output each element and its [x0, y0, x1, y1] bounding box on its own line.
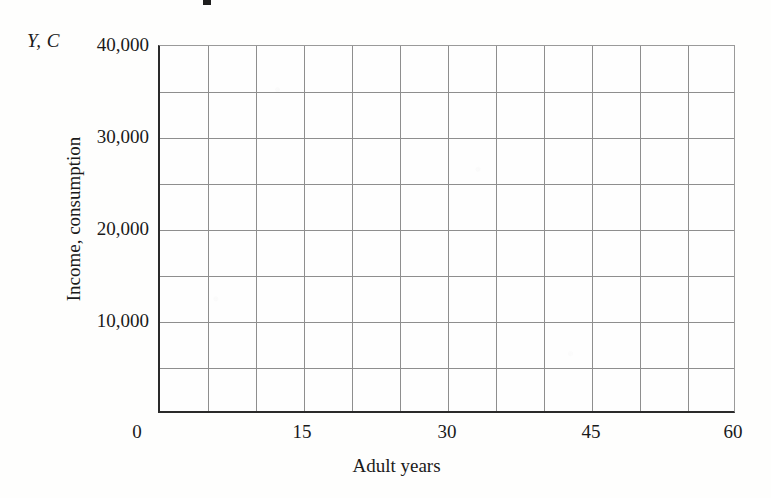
y-tick-label: 30,000 [75, 126, 149, 148]
gridline-horizontal [160, 276, 734, 277]
gridline-vertical [304, 46, 305, 411]
x-axis-title: Adult years [0, 455, 771, 477]
gridline-horizontal [160, 230, 734, 231]
y-tick-label: 20,000 [75, 218, 149, 240]
gridline-vertical [496, 46, 497, 411]
x-tick-label: 0 [132, 421, 142, 443]
gridline-horizontal [160, 322, 734, 323]
x-tick-label: 15 [293, 421, 312, 443]
gridline-vertical [400, 46, 401, 411]
gridline-vertical [592, 46, 593, 411]
gridline-horizontal [160, 184, 734, 185]
gridline-horizontal [160, 368, 734, 369]
x-tick-label: 45 [582, 421, 601, 443]
gridline-horizontal [160, 92, 734, 93]
chart-figure: Y, C Income, consumption 40,000 30,000 2… [0, 0, 771, 498]
gridline-vertical [544, 46, 545, 411]
gridline-vertical [448, 46, 449, 411]
gridline-vertical [352, 46, 353, 411]
y-tick-label: 40,000 [75, 34, 149, 56]
plot-area [158, 45, 735, 413]
gridline-vertical [208, 46, 209, 411]
y-tick-label: 10,000 [75, 310, 149, 332]
y-axis-symbol: Y, C [27, 30, 60, 52]
gridline-vertical [640, 46, 641, 411]
gridline-vertical [256, 46, 257, 411]
gridline-vertical [688, 46, 689, 411]
cutoff-title-remnant [203, 0, 211, 5]
gridline-horizontal [160, 138, 734, 139]
x-tick-label: 30 [438, 421, 457, 443]
x-tick-label: 60 [724, 421, 743, 443]
